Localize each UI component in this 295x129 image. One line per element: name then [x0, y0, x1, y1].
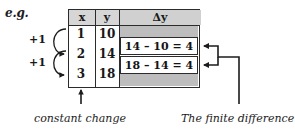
- cell-y-row2: 14: [95, 46, 119, 62]
- cell-x-row2: 2: [68, 46, 94, 62]
- cell-y-row1: 10: [95, 26, 119, 42]
- delta-y-band-top: [120, 26, 198, 37]
- caption-finite-difference: The finite difference: [181, 112, 294, 125]
- leader-arrow-delta-y-first: [204, 46, 239, 104]
- delta-y-equation-first: 14 – 10 = 4: [120, 37, 198, 55]
- column-header-delta-y: Δy: [119, 10, 201, 25]
- column-header-y: y: [95, 10, 119, 25]
- step-label-first: +1: [29, 33, 46, 46]
- cell-x-row1: 1: [68, 26, 94, 42]
- curved-arrow-step-2: [54, 51, 66, 75]
- leader-arrow-delta-y-second: [204, 57, 218, 65]
- curved-arrow-step-1: [54, 29, 66, 54]
- cell-y-row3: 18: [95, 66, 119, 82]
- caption-constant-change: constant change: [34, 112, 126, 125]
- delta-y-equation-second: 18 – 14 = 4: [120, 56, 198, 74]
- example-label: e.g.: [5, 6, 29, 20]
- step-label-second: +1: [29, 56, 46, 69]
- column-header-x: x: [69, 10, 95, 25]
- finite-difference-figure: e.g. x y Δy 1 2 3 10 14 18 14 – 10 = 4 1…: [0, 0, 295, 129]
- cell-x-row3: 3: [68, 66, 94, 82]
- delta-y-band-bottom: [120, 74, 198, 86]
- table-header-row: x y Δy: [69, 10, 199, 26]
